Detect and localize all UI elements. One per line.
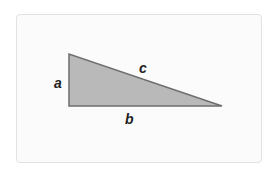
side-label-c: c (139, 61, 147, 75)
side-label-b: b (125, 112, 134, 126)
side-label-a: a (54, 76, 62, 90)
right-triangle (0, 0, 276, 172)
